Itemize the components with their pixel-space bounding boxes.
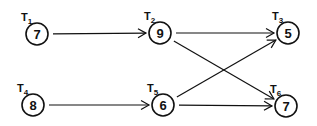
node-value: 9: [156, 26, 163, 41]
node-label: T4: [17, 82, 29, 97]
node-value: 8: [29, 98, 36, 113]
node-label: T5: [147, 82, 159, 97]
node-value: 7: [282, 99, 289, 114]
task-graph: 7T19T25T38T46T57T6: [0, 0, 317, 126]
node-value: 7: [33, 27, 40, 42]
node-value: 6: [159, 98, 166, 113]
edge-line: [177, 40, 276, 97]
edge-line: [179, 105, 272, 106]
node-label: T1: [21, 11, 33, 26]
node-t2: 9T2: [144, 10, 171, 44]
node-t5: 6T5: [147, 82, 174, 116]
node-t4: 8T4: [17, 82, 44, 116]
edge-t4-to-t5: [49, 101, 149, 110]
node-value: 5: [284, 26, 291, 41]
node-t3: 5T3: [272, 10, 299, 44]
nodes-layer: 7T19T25T38T46T57T6: [17, 10, 299, 117]
node-label: T3: [272, 10, 284, 25]
edge-t1-to-t2: [53, 29, 146, 38]
edge-t5-to-t3: [177, 40, 276, 97]
node-t1: 7T1: [21, 11, 48, 45]
node-label: T2: [144, 10, 156, 25]
edge-t2-to-t3: [176, 29, 274, 38]
node-t6: 7T6: [270, 83, 297, 117]
edge-line: [53, 33, 146, 34]
edge-t5-to-t6: [179, 101, 272, 110]
